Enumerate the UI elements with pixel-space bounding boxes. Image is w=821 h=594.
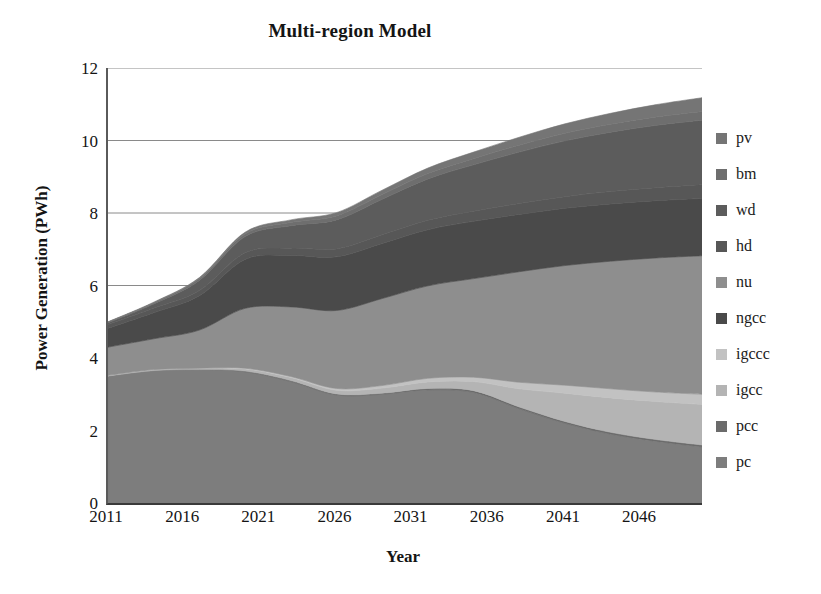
legend-item-ngcc[interactable]: ngcc (716, 300, 816, 336)
x-tick-label: 2026 (302, 508, 366, 525)
legend-label: nu (736, 274, 752, 290)
legend-label: pv (736, 130, 752, 146)
y-axis-title: Power Generation (PWh) (32, 128, 52, 428)
y-tick-label: 12 (62, 60, 98, 77)
legend-swatch-icon (716, 421, 727, 432)
legend-item-igccc[interactable]: igccc (716, 336, 816, 372)
y-axis-title-text: Power Generation (PWh) (32, 186, 51, 371)
x-tick-label: 2046 (607, 508, 671, 525)
legend-swatch-icon (716, 241, 727, 252)
x-tick-label: 2021 (226, 508, 290, 525)
legend-item-wd[interactable]: wd (716, 192, 816, 228)
legend-swatch-icon (716, 205, 727, 216)
legend-swatch-icon (716, 313, 727, 324)
legend-swatch-icon (716, 133, 727, 144)
x-tick-label: 2016 (150, 508, 214, 525)
stacked-area-plot (108, 68, 702, 503)
chart-legend: pvbmwdhdnungccigcccigccpccpc (716, 120, 816, 480)
chart-figure: Multi-region Model Power Generation (PWh… (0, 0, 821, 594)
legend-swatch-icon (716, 349, 727, 360)
legend-item-bm[interactable]: bm (716, 156, 816, 192)
x-tick-label: 2011 (74, 508, 138, 525)
legend-swatch-icon (716, 169, 727, 180)
x-axis-tick-labels: 20112016202120262031203620412046 (106, 508, 700, 534)
legend-item-pcc[interactable]: pcc (716, 408, 816, 444)
legend-label: wd (736, 202, 756, 218)
legend-label: igcc (736, 382, 763, 398)
legend-item-pv[interactable]: pv (716, 120, 816, 156)
legend-label: bm (736, 166, 756, 182)
legend-item-nu[interactable]: nu (716, 264, 816, 300)
x-tick-label: 2036 (455, 508, 519, 525)
legend-label: ngcc (736, 310, 766, 326)
legend-swatch-icon (716, 277, 727, 288)
legend-item-hd[interactable]: hd (716, 228, 816, 264)
legend-swatch-icon (716, 457, 727, 468)
legend-item-igcc[interactable]: igcc (716, 372, 816, 408)
x-tick-label: 2041 (531, 508, 595, 525)
x-tick-label: 2031 (379, 508, 443, 525)
x-axis-title: Year (106, 547, 700, 567)
legend-swatch-icon (716, 385, 727, 396)
chart-title: Multi-region Model (0, 20, 700, 42)
legend-item-pc[interactable]: pc (716, 444, 816, 480)
y-tick-label: 10 (62, 133, 98, 150)
y-tick-label: 4 (62, 350, 98, 367)
y-tick-label: 8 (62, 205, 98, 222)
legend-label: igccc (736, 346, 770, 362)
legend-label: pc (736, 454, 751, 470)
legend-label: pcc (736, 418, 758, 434)
legend-label: hd (736, 238, 752, 254)
y-tick-label: 2 (62, 423, 98, 440)
y-tick-label: 6 (62, 278, 98, 295)
plot-area (106, 68, 702, 505)
y-axis-tick-labels: 121086420 (52, 68, 98, 503)
